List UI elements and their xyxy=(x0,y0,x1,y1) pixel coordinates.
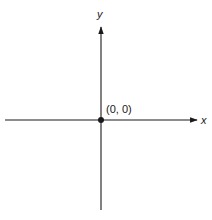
origin-label: (0, 0) xyxy=(106,103,132,115)
coordinate-diagram: (0, 0) x y xyxy=(0,0,212,220)
origin-point xyxy=(98,117,104,123)
y-axis-label: y xyxy=(96,8,104,20)
x-axis-label: x xyxy=(200,114,207,126)
